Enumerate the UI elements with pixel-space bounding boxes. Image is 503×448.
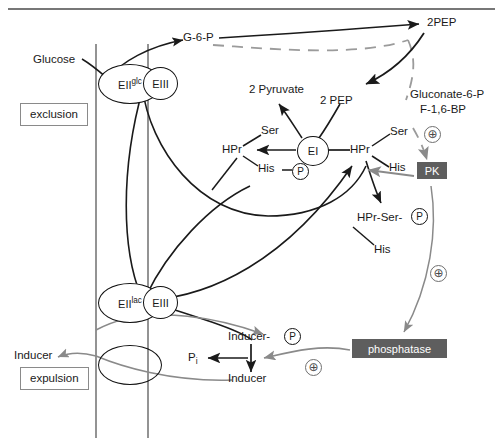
label-gluconate-6-p: Gluconate-6-P xyxy=(410,89,484,101)
edge-eiiilac-up-to-hpr xyxy=(146,186,250,296)
tick-hpr-left-ser xyxy=(243,135,261,146)
enzyme-ei-label: EI xyxy=(308,145,318,157)
transporter-eiii-glc-label: EIII xyxy=(152,78,169,90)
label-ser-right: Ser xyxy=(390,126,408,138)
edge-2pep-down xyxy=(366,33,424,84)
label-f-1-6-bp: F-1,6-BP xyxy=(420,104,466,116)
tick-hprserp-his xyxy=(353,227,374,245)
label-inducer-outside: Inducer xyxy=(14,350,52,362)
transporter-eiii-lac-label: EIII xyxy=(152,297,169,309)
edge-hpr-to-hprserp xyxy=(366,161,381,203)
state-box-exclusion: exclusion xyxy=(20,103,88,126)
label-hpr-right: HPr xyxy=(350,144,370,156)
label-his-below: His xyxy=(374,244,391,256)
edge-g6p-gray-dashed xyxy=(213,40,408,50)
edge-g6p-to-2pep xyxy=(219,24,419,38)
phosphate-circle-hpr-ser: P xyxy=(411,208,428,225)
transporter-eiii-glc[interactable]: EIII xyxy=(143,67,178,100)
tick-hpr-left-his xyxy=(243,156,258,166)
edge-eiiiglc-to-eiiilac xyxy=(126,88,143,296)
transporter-eii-lac-label: EIIlac xyxy=(118,296,142,310)
state-box-expulsion: expulsion xyxy=(20,367,89,390)
enzyme-box-phosphatase[interactable]: phosphatase xyxy=(352,339,447,358)
edge-ei-to-pyruvate xyxy=(279,104,302,138)
phosphate-circle-inducer: P xyxy=(284,328,301,345)
permease-oval[interactable] xyxy=(98,345,162,385)
edge-inducer-out xyxy=(58,353,96,357)
label-hpr-left: HPr xyxy=(222,144,242,156)
tick-hpr-right-his xyxy=(372,156,389,167)
stem-hpr-left-down xyxy=(212,158,237,190)
label-glucose: Glucose xyxy=(33,54,75,66)
state-box-expulsion-label: expulsion xyxy=(30,372,79,384)
phosphate-circle-his-left: P xyxy=(292,163,309,180)
edge-2pep-to-ei xyxy=(319,104,340,138)
label-hpr-ser-p: HPr-Ser- xyxy=(357,212,402,224)
label-2-pyruvate: 2 Pyruvate xyxy=(249,84,304,96)
edge-phosphatase-to-inducerp xyxy=(264,348,350,358)
activation-plus-phosphatase: ⊕ xyxy=(430,265,447,282)
transporter-eiii-lac[interactable]: EIII xyxy=(143,286,178,319)
label-his-left: His xyxy=(258,163,275,175)
transporter-eii-glc-label: EIIglc xyxy=(118,77,142,91)
activation-plus-inducer: ⊕ xyxy=(305,359,322,376)
enzyme-box-pk[interactable]: PK xyxy=(417,162,447,179)
label-ser-left: Ser xyxy=(261,125,279,137)
edge-eiiilac-right-to-hpr xyxy=(150,166,352,300)
diagram-canvas: EIIglc EIII EIIlac EIII EI PK phosphatas… xyxy=(0,0,503,448)
label-2pep-top: 2PEP xyxy=(427,17,456,29)
label-g6p: G-6-P xyxy=(183,32,214,44)
state-box-exclusion-label: exclusion xyxy=(30,108,78,120)
enzyme-box-pk-label: PK xyxy=(425,165,440,177)
label-his-right: His xyxy=(389,162,406,174)
label-inducer-p: Inducer- xyxy=(228,331,270,343)
label-pi: Pi xyxy=(188,352,198,366)
label-inducer-inside: Inducer xyxy=(228,373,266,385)
enzyme-ei-circle[interactable]: EI xyxy=(297,136,329,166)
activation-plus-pk: ⊕ xyxy=(424,126,441,143)
tick-hpr-right-ser xyxy=(372,134,390,146)
label-2-pep-mid: 2 PEP xyxy=(320,95,353,107)
enzyme-box-phosphatase-label: phosphatase xyxy=(368,343,431,355)
